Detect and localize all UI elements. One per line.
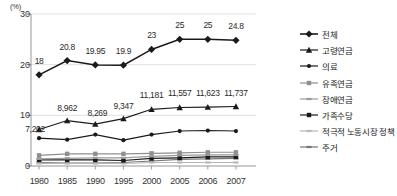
data-point	[234, 150, 238, 154]
data-point-label: 24.8	[228, 21, 243, 31]
data-point	[121, 157, 126, 159]
data-point	[177, 161, 182, 163]
data-point-label: 7,202	[25, 124, 45, 134]
legend-label: 장애연금	[319, 93, 352, 105]
data-point	[232, 37, 239, 44]
data-point	[65, 138, 69, 142]
legend-label: 주거	[319, 141, 337, 153]
legend-label: 가족수당	[319, 109, 352, 121]
data-point	[206, 128, 210, 132]
data-point	[121, 152, 125, 156]
data-point	[65, 162, 70, 164]
data-point	[176, 36, 183, 43]
data-point	[177, 151, 181, 155]
data-point	[149, 155, 154, 157]
data-point	[37, 153, 41, 157]
data-point	[120, 62, 127, 69]
legend-label: 전체	[319, 28, 337, 40]
legend-label: 유족연금	[319, 77, 352, 89]
data-point-label: 19.9	[116, 46, 131, 56]
data-point	[233, 161, 238, 163]
legend-item-6[interactable]: 가족수당	[299, 107, 395, 123]
legend-item-7[interactable]: 적극적 노동시장 정책	[299, 123, 395, 139]
legend-item-5[interactable]: 장애연금	[299, 91, 395, 107]
data-point	[305, 30, 312, 37]
x-axis-tick: 1990	[86, 176, 105, 186]
data-point	[93, 132, 97, 136]
data-point	[178, 129, 182, 133]
data-point	[64, 57, 71, 64]
data-point	[65, 152, 69, 156]
data-point	[93, 152, 97, 156]
triangle-marker-icon	[299, 44, 319, 56]
series-의료	[37, 128, 238, 142]
data-point	[307, 80, 311, 84]
x-axis-tick: 1980	[30, 176, 49, 186]
data-point	[306, 98, 311, 100]
square-marker-icon	[299, 109, 319, 121]
data-point-label: 23	[147, 30, 156, 40]
data-point	[306, 146, 311, 148]
legend-item-4[interactable]: 유족연금	[299, 75, 395, 91]
data-point-label: 20.8	[60, 42, 75, 52]
data-point	[35, 71, 42, 78]
legend-item-1[interactable]: 전체	[299, 26, 395, 42]
data-point	[205, 161, 210, 163]
data-point-label: 8,269	[87, 108, 107, 118]
data-point-label: 9,347	[114, 101, 134, 111]
data-point	[148, 46, 155, 53]
data-point-label: 11,181	[140, 90, 164, 100]
data-point	[121, 138, 125, 142]
y-axis-tick: 10	[4, 110, 30, 120]
x-axis-tick: 2005	[170, 176, 189, 186]
data-point	[121, 162, 126, 164]
data-point-label: 18	[35, 56, 44, 66]
data-point	[36, 162, 41, 164]
legend-item-3[interactable]: 의료	[299, 58, 395, 74]
data-point	[65, 157, 70, 159]
data-point-label: 11,557	[168, 88, 192, 98]
y-axis-tick: 30	[4, 9, 30, 19]
legend-label: 적극적 노동시장 정책	[319, 125, 394, 137]
data-point	[204, 36, 211, 43]
chart-legend: 전체고령연금의료유족연금장애연금가족수당적극적 노동시장 정책주거	[299, 26, 395, 156]
legend-label: 의료	[319, 60, 337, 72]
data-point	[92, 61, 99, 68]
dash-marker-icon	[299, 125, 319, 137]
circle-marker-icon	[299, 60, 319, 72]
x-axis-tick: 1985	[58, 176, 77, 186]
data-point-label: 8,962	[57, 103, 77, 113]
y-axis-tick-labels: 0102030	[0, 0, 30, 196]
data-point-label: 25	[175, 20, 184, 30]
data-point	[36, 158, 41, 160]
dash-marker-icon	[299, 93, 319, 105]
square-marker-icon	[299, 77, 319, 89]
data-point	[307, 64, 311, 68]
data-point-label: 19.95	[85, 46, 105, 56]
data-point-label: 11,737	[224, 88, 248, 98]
data-point	[149, 151, 153, 155]
data-point	[93, 162, 98, 164]
data-point	[306, 130, 311, 132]
data-point-label: 25	[203, 20, 212, 30]
y-axis-tick: 0	[4, 161, 30, 171]
data-point	[93, 157, 98, 159]
x-axis-tick: 2000	[142, 176, 161, 186]
line-chart: (%) 0102030 1980198519901995200020052006…	[0, 0, 397, 196]
legend-item-8[interactable]: 주거	[299, 139, 395, 155]
x-axis-tick: 2006	[198, 176, 217, 186]
data-point	[307, 113, 311, 117]
x-axis-tick: 2007	[227, 176, 246, 186]
legend-item-2[interactable]: 고령연금	[299, 42, 395, 58]
dash-marker-icon	[299, 141, 319, 153]
data-point	[234, 129, 238, 133]
x-axis-tick: 1995	[114, 176, 133, 186]
legend-label: 고령연금	[319, 44, 352, 56]
data-point-label: 11,623	[196, 88, 220, 98]
y-axis-tick: 20	[4, 60, 30, 70]
data-point	[37, 136, 41, 140]
data-point	[149, 161, 154, 163]
data-point	[149, 132, 153, 136]
diamond-marker-icon	[299, 28, 319, 40]
data-point	[206, 150, 210, 154]
